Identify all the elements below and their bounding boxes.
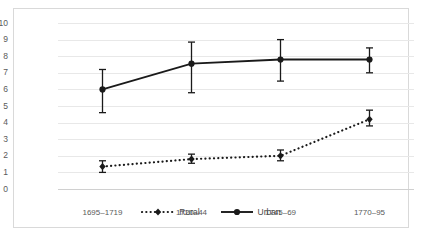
data-point-marker	[366, 116, 372, 123]
legend-item-urban[interactable]: Urban	[220, 207, 281, 217]
data-point-marker	[188, 61, 194, 67]
y-axis-tick-label: 3	[0, 135, 8, 144]
series-urban	[99, 40, 373, 113]
y-axis-tick-label: 6	[0, 85, 8, 94]
y-axis-tick-label: 7	[0, 68, 8, 77]
y-axis-tick-label: 1	[0, 168, 8, 177]
legend-label: Rural	[179, 208, 199, 217]
chart-container: 012345678910 1695–17191720–441745–691770…	[13, 8, 409, 228]
y-axis-tick-label: 8	[0, 52, 8, 61]
data-point-marker	[366, 56, 372, 62]
series-line	[103, 119, 370, 166]
data-point-marker	[99, 163, 105, 170]
legend-swatch-urban-icon	[220, 207, 254, 217]
series-rural	[99, 110, 373, 172]
y-axis-tick-label: 9	[0, 35, 8, 44]
series-line	[103, 60, 370, 90]
data-point-marker	[277, 152, 283, 159]
y-axis-tick-label: 2	[0, 151, 8, 160]
data-point-marker	[188, 156, 194, 163]
y-axis-tick-label: 10	[0, 19, 8, 28]
y-axis-tick-label: 5	[0, 102, 8, 111]
y-axis-tick-label: 0	[0, 185, 8, 194]
data-point-marker	[277, 56, 283, 62]
legend-label: Urban	[258, 208, 281, 217]
data-point-marker	[99, 86, 105, 92]
error-bar	[188, 42, 195, 93]
data-series-layer	[58, 23, 414, 189]
plot-area: 012345678910 1695–17191720–441745–691770…	[58, 23, 414, 189]
y-axis-tick-label: 4	[0, 118, 8, 127]
legend-swatch-rural-icon	[141, 207, 175, 217]
axis-baseline	[58, 189, 414, 190]
legend-item-rural[interactable]: Rural	[141, 207, 199, 217]
chart-legend: RuralUrban	[0, 207, 422, 217]
